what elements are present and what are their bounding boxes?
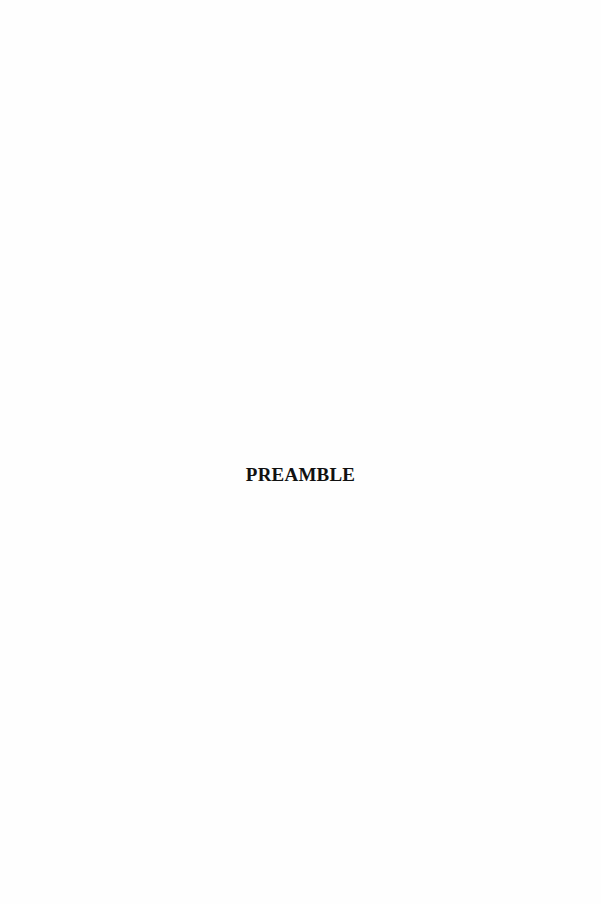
section-heading: PREAMBLE bbox=[0, 464, 601, 486]
document-page: PREAMBLE bbox=[0, 0, 601, 904]
